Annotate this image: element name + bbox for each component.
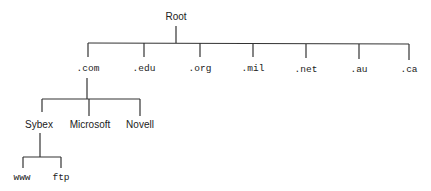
tld-node-mil: .mil bbox=[242, 64, 265, 74]
tld-node-net: .net bbox=[295, 65, 318, 75]
root-node: Root bbox=[165, 12, 186, 22]
domain-node-microsoft: Microsoft bbox=[70, 120, 111, 130]
tld-node-au: .au bbox=[350, 65, 367, 75]
tld-node-ca: .ca bbox=[400, 65, 417, 75]
tld-node-com: .com bbox=[77, 64, 100, 74]
domain-node-novell: Novell bbox=[126, 120, 154, 130]
tree-connectors bbox=[0, 0, 431, 191]
tld-node-edu: .edu bbox=[133, 64, 156, 74]
host-node-ftp: ftp bbox=[52, 173, 69, 183]
domain-node-sybex: Sybex bbox=[25, 120, 53, 130]
host-node-www: www bbox=[13, 173, 30, 183]
tld-node-org: .org bbox=[189, 64, 212, 74]
